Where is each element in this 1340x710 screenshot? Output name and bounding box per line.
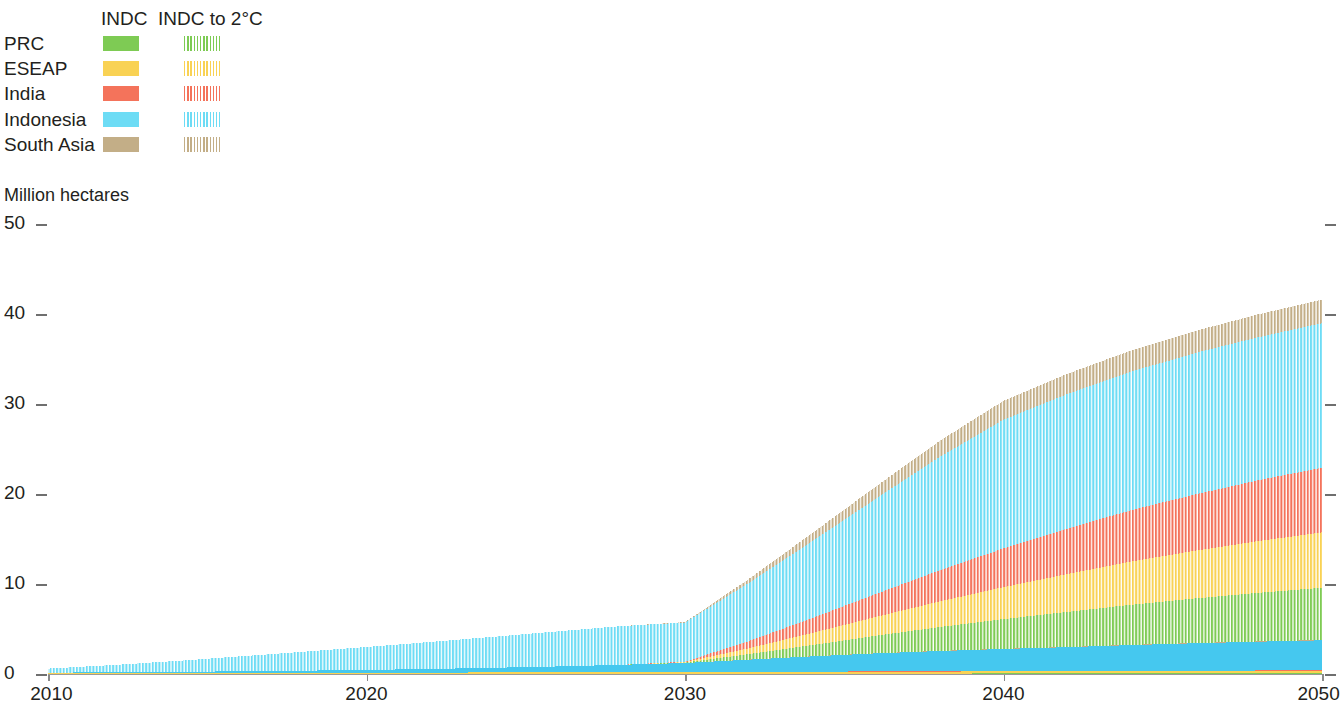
- legend-label-prc: PRC: [4, 33, 44, 55]
- legend-swatch-eseap-2c: [184, 61, 220, 76]
- legend-swatch-eseap-indc: [103, 61, 139, 76]
- legend-header-indc: INDC: [101, 8, 147, 30]
- legend-swatch-prc-2c: [184, 36, 220, 51]
- chart-legend: INDC INDC to 2°C PRC ESEAP India Indones…: [0, 0, 300, 158]
- legend-item-indonesia: Indonesia: [0, 108, 300, 133]
- legend-swatch-prc-indc: [103, 36, 139, 51]
- legend-swatch-india-indc: [103, 86, 139, 101]
- legend-swatch-south-asia-indc: [103, 137, 139, 152]
- plot-area: [0, 175, 1336, 710]
- legend-label-eseap: ESEAP: [4, 58, 67, 80]
- legend-header-row: INDC INDC to 2°C: [0, 0, 300, 32]
- legend-item-south-asia: South Asia: [0, 133, 300, 158]
- legend-swatch-india-2c: [184, 86, 220, 101]
- legend-swatch-indonesia-indc: [103, 112, 139, 127]
- legend-label-indonesia: Indonesia: [4, 109, 86, 131]
- legend-header-indc-to-2c: INDC to 2°C: [158, 8, 263, 30]
- legend-swatch-indonesia-2c: [184, 112, 220, 127]
- legend-swatch-south-asia-2c: [184, 137, 220, 152]
- legend-label-india: India: [4, 83, 45, 105]
- legend-item-india: India: [0, 82, 300, 107]
- legend-label-south-asia: South Asia: [4, 134, 95, 156]
- legend-item-eseap: ESEAP: [0, 57, 300, 82]
- legend-item-prc: PRC: [0, 32, 300, 57]
- stacked-area-chart: Million hectares 01020304050 20102020203…: [0, 175, 1336, 710]
